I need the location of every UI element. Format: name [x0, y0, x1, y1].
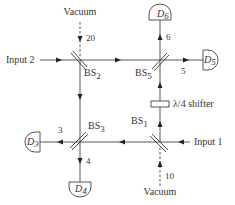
detector-d4: D4: [69, 182, 91, 197]
detector-d5: D5: [203, 50, 218, 70]
arrow-left-icon: [119, 140, 125, 145]
beam-splitter-1: [150, 134, 168, 152]
vacuum-top-label: Vacuum: [64, 6, 97, 17]
mode-10-label: 10: [165, 171, 175, 181]
arrow-up-icon: [158, 82, 163, 88]
interferometer-diagram: Vacuum 20 Input 2 BS2 BS5 6 D6 5 D5 λ/4: [0, 0, 235, 205]
mode-4-label: 4: [86, 156, 91, 166]
arrow-up-icon: [158, 34, 163, 40]
mode-20-label: 20: [86, 33, 96, 43]
arrow-left-icon: [178, 140, 184, 145]
bs5-label: BS5: [135, 67, 152, 81]
arrow-left-icon: [57, 140, 63, 145]
arrow-up-icon: [158, 121, 163, 127]
bs1-label: BS1: [131, 115, 148, 129]
mode-3-label: 3: [58, 125, 63, 135]
detector-d3: D3: [25, 132, 40, 152]
bs3-label: BS3: [88, 120, 105, 134]
mode-5-label: 5: [181, 66, 186, 76]
arrow-right-icon: [56, 58, 62, 63]
input-2-label: Input 2: [6, 54, 35, 65]
arrow-right-icon: [183, 58, 189, 63]
quarter-wave-shifter: [151, 101, 169, 107]
arrow-up-icon: [158, 161, 163, 167]
arrow-right-icon: [115, 58, 121, 63]
arrow-down-icon: [78, 158, 83, 164]
arrow-down-icon: [78, 94, 83, 100]
beam-splitter-3: [70, 132, 88, 150]
shifter-label: λ/4 shifter: [173, 98, 214, 109]
bs2-label: BS2: [84, 67, 101, 81]
vacuum-bottom-label: Vacuum: [144, 186, 177, 197]
input-1-label: Input 1: [194, 136, 223, 147]
mode-6-label: 6: [166, 32, 171, 42]
beam-splitter-5: [152, 53, 169, 71]
detector-d6: D6: [149, 4, 171, 21]
arrow-down-icon: [78, 36, 83, 42]
